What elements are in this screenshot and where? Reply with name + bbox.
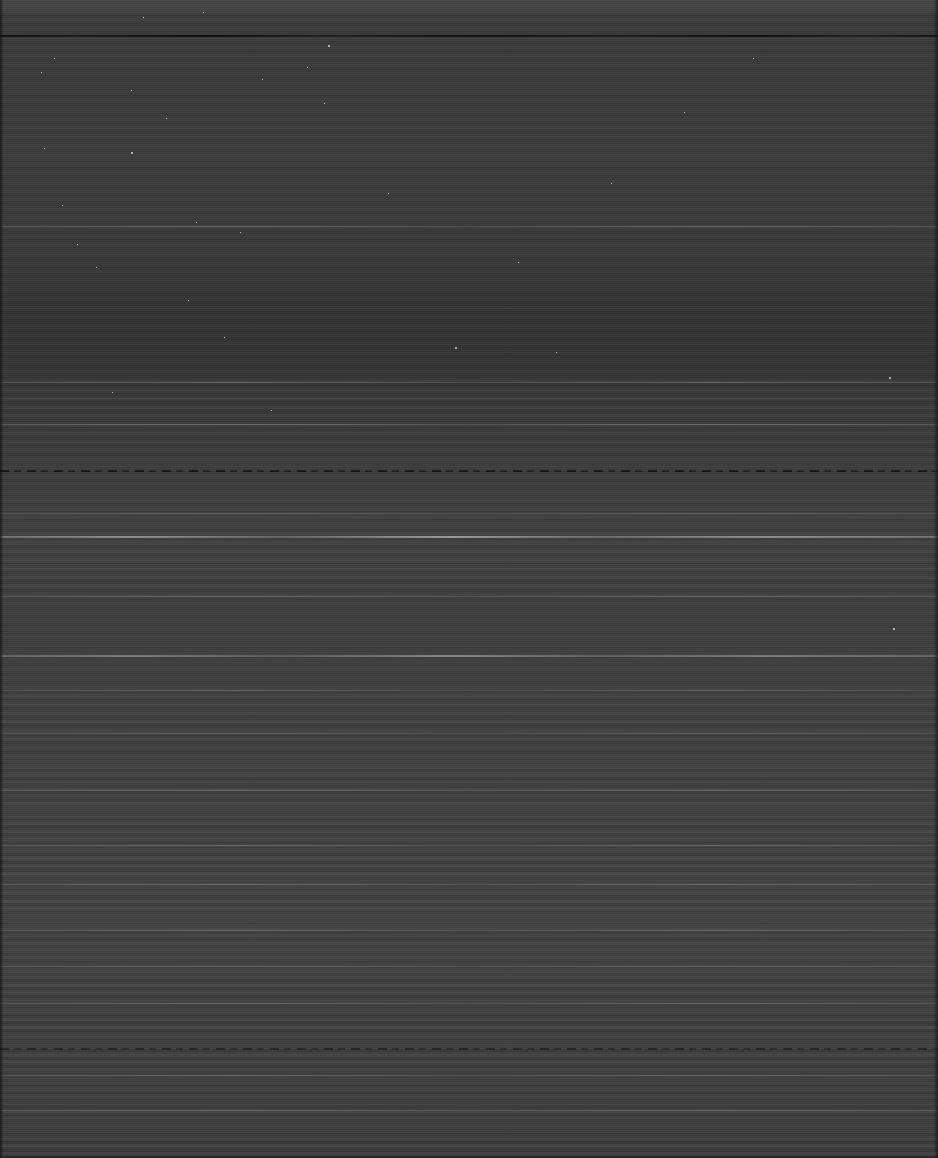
top-dark-rule [0, 35, 938, 37]
soft-line-9 [0, 845, 938, 846]
mid-dashed-rule [0, 470, 938, 472]
soft-line-7 [0, 733, 938, 734]
soft-line-3 [0, 424, 938, 425]
soft-line-5 [0, 596, 938, 597]
soft-line-14 [0, 1075, 938, 1076]
left-edge-border [0, 0, 3, 1158]
soft-line-8 [0, 790, 938, 791]
lower-dashed-rule [0, 1048, 938, 1050]
soft-line-11 [0, 930, 938, 931]
soft-line-15 [0, 1110, 938, 1111]
soft-line-6 [0, 690, 938, 691]
lower-bright-separator [0, 655, 938, 657]
mid-bright-separator [0, 536, 938, 538]
soft-line-2 [0, 382, 938, 383]
soft-line-13 [0, 1003, 938, 1004]
soft-line-10 [0, 884, 938, 885]
upper-dark-wash [0, 250, 938, 390]
soft-line-1 [0, 226, 938, 227]
header-band [0, 0, 938, 14]
degraded-scan-page: Severely underexposed, near-black scanne… [0, 0, 938, 1158]
background-field [0, 0, 938, 1158]
soft-line-4 [0, 513, 938, 514]
soft-line-12 [0, 966, 938, 967]
right-edge-border [934, 0, 938, 1158]
